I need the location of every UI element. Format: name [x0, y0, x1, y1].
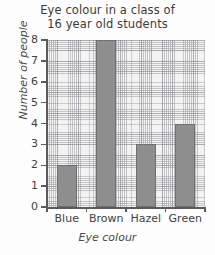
- y-tick-label-6: 6: [12, 76, 38, 87]
- y-tick-5: [41, 102, 46, 104]
- y-tick-3: [41, 144, 46, 146]
- y-axis-label: Number of people: [12, 5, 28, 135]
- x-tick-label-blue: Blue: [47, 212, 87, 225]
- bar-blue[interactable]: [57, 165, 77, 207]
- x-tick-label-green: Green: [166, 212, 206, 225]
- y-tick-label-8: 8: [12, 34, 38, 45]
- y-tick-label-1: 1: [12, 180, 38, 191]
- bar-hazel[interactable]: [136, 144, 156, 207]
- bar-slot-blue: [47, 40, 87, 207]
- bars-layer: [47, 40, 205, 207]
- chart-title-line-2: 16 year old students: [0, 17, 215, 31]
- y-tick-label-3: 3: [12, 138, 38, 149]
- bar-slot-green: [166, 40, 206, 207]
- bar-brown[interactable]: [96, 40, 116, 207]
- x-tick-label-brown: Brown: [87, 212, 127, 225]
- bar-chart: Eye colour in a class of 16 year old stu…: [0, 0, 215, 255]
- bar-slot-brown: [87, 40, 127, 207]
- x-tick-label-hazel: Hazel: [126, 212, 166, 225]
- x-axis-tick-labels: Blue Brown Hazel Green: [47, 212, 205, 225]
- y-tick-label-5: 5: [12, 97, 38, 108]
- y-tick-2: [41, 165, 46, 167]
- bar-slot-hazel: [126, 40, 166, 207]
- y-tick-label-0: 0: [12, 201, 38, 212]
- y-tick-label-7: 7: [12, 55, 38, 66]
- y-axis-line: [46, 39, 48, 208]
- y-tick-label-4: 4: [12, 118, 38, 129]
- y-tick-1: [41, 185, 46, 187]
- bar-green[interactable]: [175, 124, 195, 208]
- y-tick-4: [41, 123, 46, 125]
- y-tick-8: [41, 39, 46, 41]
- plot-area: [47, 40, 205, 207]
- y-tick-6: [41, 81, 46, 83]
- x-axis-label: Eye colour: [0, 231, 215, 244]
- y-tick-0: [41, 206, 46, 208]
- chart-title-line-1: Eye colour in a class of: [0, 3, 215, 17]
- y-tick-7: [41, 60, 46, 62]
- y-tick-label-2: 2: [12, 159, 38, 170]
- chart-title: Eye colour in a class of 16 year old stu…: [0, 3, 215, 31]
